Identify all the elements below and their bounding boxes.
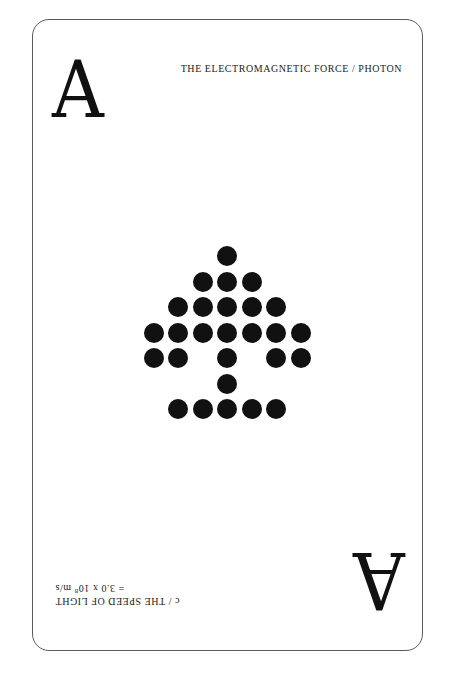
pip-dot — [217, 323, 237, 343]
pip-dot — [217, 246, 237, 266]
pip-dot — [193, 399, 213, 419]
speed-exponent: 8 — [74, 587, 78, 595]
pip-dot — [242, 297, 262, 317]
pip-dot — [168, 348, 188, 368]
speed-value: = 3.0 x 10 — [78, 583, 124, 594]
pip-dot — [242, 399, 262, 419]
pip-dot — [266, 323, 286, 343]
pip-dot — [168, 323, 188, 343]
pip-dot — [217, 348, 237, 368]
pip-dot — [217, 399, 237, 419]
pip-dot — [193, 323, 213, 343]
pip-dot — [291, 348, 311, 368]
pip-dot — [242, 272, 262, 292]
pip-dot — [291, 323, 311, 343]
caption-bottom-line-1: c / THE SPEED OF LIGHT — [55, 595, 179, 608]
pip-dot — [217, 297, 237, 317]
bottom-corner: A c / THE SPEED OF LIGHT = 3.0 x 108 m/s — [33, 530, 424, 650]
pip-dot — [193, 272, 213, 292]
pip-dot — [168, 297, 188, 317]
caption-bottom: c / THE SPEED OF LIGHT = 3.0 x 108 m/s — [55, 582, 179, 608]
pip-dot — [217, 374, 237, 394]
playing-card: A THE ELECTROMAGNETIC FORCE / PHOTON A c… — [32, 19, 423, 651]
pip-dot — [266, 297, 286, 317]
pip-dot — [144, 348, 164, 368]
caption-bottom-line-2: = 3.0 x 108 m/s — [55, 582, 179, 595]
pip-dot — [217, 272, 237, 292]
pip-dot — [266, 348, 286, 368]
pip-dot — [242, 323, 262, 343]
pip-dot — [144, 323, 164, 343]
speed-unit: m/s — [55, 583, 74, 594]
pip-dot — [266, 399, 286, 419]
pip-dot — [168, 399, 188, 419]
pip-dot — [193, 297, 213, 317]
rank-label-bottom: A — [353, 541, 405, 619]
